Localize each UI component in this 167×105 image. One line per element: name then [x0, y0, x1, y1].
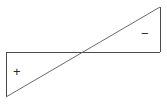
- negative-region-sign: −: [141, 27, 149, 40]
- geometry-figure: [0, 0, 167, 105]
- diagram-canvas: + −: [0, 0, 167, 105]
- positive-region-sign: +: [13, 65, 21, 78]
